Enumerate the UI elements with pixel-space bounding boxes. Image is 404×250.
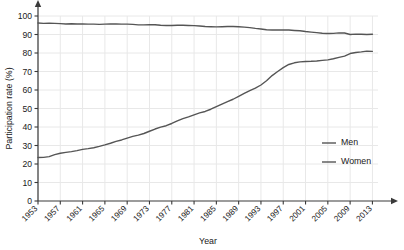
y-tick-label: 80 (22, 48, 32, 58)
y-tick-label: 50 (22, 104, 32, 114)
y-tick-label: 70 (22, 67, 32, 77)
y-tick-label: 90 (22, 30, 32, 40)
y-tick-label: 60 (22, 85, 32, 95)
y-tick-label: 10 (22, 178, 32, 188)
y-tick-label: 40 (22, 122, 32, 132)
y-tick-label: 100 (18, 11, 33, 21)
line-chart: 0102030405060708090100 19531957196119651… (0, 0, 404, 250)
y-axis-title: Participation rate (%) (4, 67, 14, 149)
y-tick-label: 30 (22, 141, 32, 151)
legend-label-men: Men (341, 137, 358, 147)
x-axis-title: Year (199, 236, 217, 246)
chart-container: 0102030405060708090100 19531957196119651… (0, 0, 404, 250)
legend-label-women: Women (341, 156, 371, 166)
y-tick-label: 20 (22, 159, 32, 169)
